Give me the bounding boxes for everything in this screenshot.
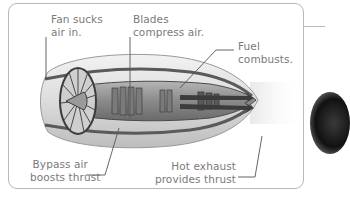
label-bypass: Bypass air boosts thrust	[30, 158, 88, 183]
exhaust-plume	[250, 82, 305, 124]
label-exhaust: Hot exhaust provides thrust	[148, 160, 236, 185]
label-fuel: Fuel combusts.	[238, 40, 293, 65]
label-fan: Fan sucks air in.	[51, 13, 103, 38]
compressor-stages	[112, 87, 172, 115]
leader-exhaust	[238, 136, 262, 177]
label-blades: Blades compress air.	[133, 13, 204, 38]
